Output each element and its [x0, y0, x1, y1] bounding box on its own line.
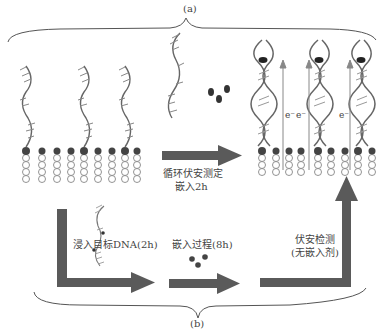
step-arrow-b2 — [169, 273, 240, 294]
step-a-label-line1: 循环伏安测定 — [163, 168, 223, 180]
step-arrow-a — [162, 145, 242, 166]
electron-label-3: e⁻ — [339, 109, 349, 121]
bottom-brace — [34, 288, 366, 318]
sam-columns — [23, 155, 141, 183]
step-a-label-line2: 嵌入2h — [175, 181, 208, 193]
target-dna-small — [92, 205, 105, 266]
panel-b-label: (b) — [190, 318, 204, 330]
step-arrow-b3 — [260, 176, 358, 287]
intercalator-molecules — [208, 85, 230, 103]
step-b3-label-line1: 伏安检测 — [295, 234, 335, 246]
probe-dna-strands — [22, 66, 130, 147]
left-electrode-sam — [20, 66, 141, 183]
step-arrow-b1 — [57, 209, 155, 293]
step-b3-label-line2: (无嵌入剂) — [291, 247, 339, 259]
duplex-dna-helices — [251, 40, 375, 146]
right-electrode-duplex — [251, 40, 376, 176]
step-b1-label: 浸入目标DNA(2h) — [73, 239, 158, 251]
probe-dna-bases — [20, 67, 134, 138]
top-brace — [8, 18, 376, 42]
electron-label-2: e⁻ — [296, 109, 306, 121]
target-dna-free — [168, 33, 184, 118]
step-b2-label: 嵌入过程(8h) — [172, 239, 233, 251]
diagram-canvas — [0, 0, 388, 331]
electron-label-1: e⁻ — [285, 109, 295, 121]
intercalator-molecules-small — [189, 254, 208, 268]
